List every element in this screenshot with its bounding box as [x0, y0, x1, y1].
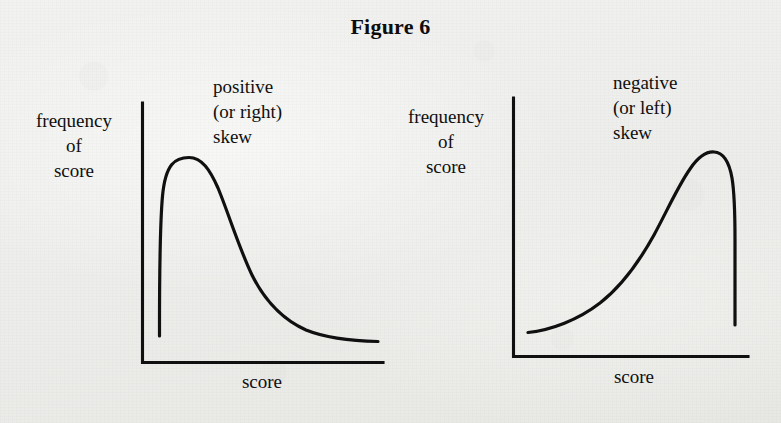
right-y-axis-label-line-3: score	[390, 154, 502, 179]
left-positive-skew-curve	[159, 158, 378, 342]
left-y-axis-label: frequency of score	[18, 108, 130, 183]
right-y-axis-label-line-2: of	[390, 129, 502, 154]
left-skew-annotation-line-3: skew	[213, 124, 343, 149]
left-y-axis-label-line-3: score	[18, 158, 130, 183]
left-y-axis-label-line-2: of	[18, 133, 130, 158]
figure-page: Figure 6 frequency of score positive (or…	[0, 0, 781, 423]
right-skew-annotation-line-2: (or left)	[613, 95, 749, 120]
left-x-axis-label: score	[200, 371, 324, 393]
right-negative-skew-curve	[528, 152, 735, 333]
left-skew-annotation: positive (or right) skew	[213, 74, 343, 149]
plot-layer	[0, 0, 781, 423]
right-y-axis-label: frequency of score	[390, 104, 502, 179]
paper-texture-overlay	[0, 0, 781, 423]
right-x-axis-label: score	[572, 366, 696, 388]
figure-title: Figure 6	[0, 14, 781, 40]
left-y-axis-label-line-1: frequency	[18, 108, 130, 133]
right-y-axis-label-line-1: frequency	[390, 104, 502, 129]
right-skew-annotation: negative (or left) skew	[613, 70, 749, 145]
left-skew-annotation-line-2: (or right)	[213, 99, 343, 124]
right-skew-annotation-line-1: negative	[613, 70, 749, 95]
left-skew-annotation-line-1: positive	[213, 74, 343, 99]
right-skew-annotation-line-3: skew	[613, 120, 749, 145]
paper-blotch-overlay	[0, 0, 781, 423]
